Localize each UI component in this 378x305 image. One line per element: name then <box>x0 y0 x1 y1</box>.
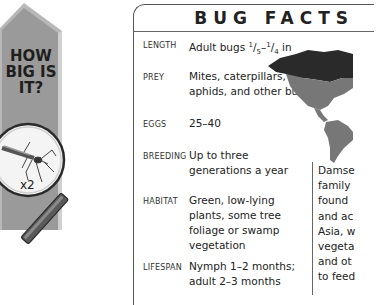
length-text: Adult bugs <box>189 41 245 53</box>
banner-line-3: IT? <box>0 80 62 96</box>
description-line: and ot <box>318 254 378 269</box>
fact-label-breeding: Breeding <box>143 152 186 161</box>
description-line: family <box>318 178 378 193</box>
scale-label: x2 <box>20 178 35 192</box>
fact-label-eggs: Eggs <box>143 120 166 129</box>
description-line: Asia, w <box>318 224 378 239</box>
habitat-line: Green, low-lying <box>189 193 309 208</box>
habitat-line: foliage or swamp <box>189 223 309 238</box>
title-divider <box>134 31 374 32</box>
banner-line-1: HOW <box>0 48 62 64</box>
banner-line-2: BIG IS <box>0 64 62 80</box>
card-title: BUG FACTS <box>134 5 354 31</box>
fact-label-habitat: Habitat <box>143 197 178 206</box>
frac-a-num: 1 <box>249 40 253 48</box>
americas-map-icon <box>258 48 353 163</box>
fact-label-lifespan: Lifespan <box>143 263 182 272</box>
description-line: to feed <box>318 269 378 284</box>
column-divider <box>312 162 313 295</box>
habitat-line: plants, some tree <box>189 208 309 223</box>
habitat-line: vegetation <box>189 238 309 253</box>
frac-b-num: 1 <box>266 40 270 48</box>
fact-value-habitat: Green, low-lying plants, some tree folia… <box>189 193 309 253</box>
lifespan-line: adult 2–3 months <box>189 274 309 289</box>
magnifier-icon <box>0 120 125 270</box>
description-line: and ac <box>318 209 378 224</box>
description-line: found <box>318 193 378 208</box>
side-description: Damse family found and ac Asia, w vegeta… <box>318 163 378 285</box>
fact-value-lifespan: Nymph 1–2 months; adult 2–3 months <box>189 259 309 289</box>
banner-title: HOW BIG IS IT? <box>0 48 62 96</box>
description-line: Damse <box>318 163 378 178</box>
lifespan-line: Nymph 1–2 months; <box>189 259 309 274</box>
description-line: vegeta <box>318 239 378 254</box>
fact-label-prey: Prey <box>143 73 164 82</box>
fact-label-length: Length <box>143 41 177 50</box>
range-map <box>258 48 353 167</box>
magnifying-glass: x2 <box>0 120 125 270</box>
